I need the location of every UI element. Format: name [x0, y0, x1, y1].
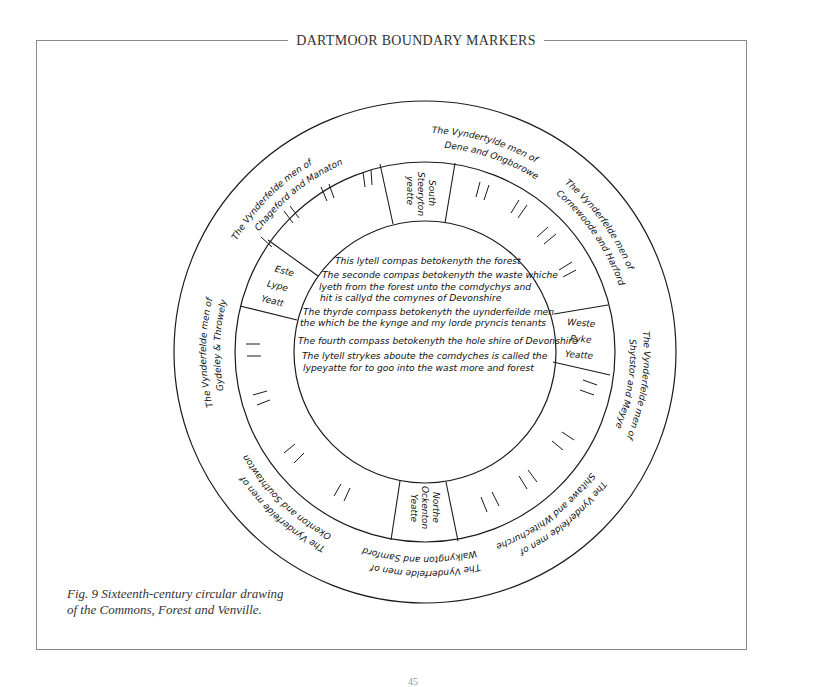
inner-legend-text: This lytell compas betokenyth the forest… [298, 255, 578, 373]
svg-text:Weste: Weste [567, 317, 596, 329]
venville-walkyngton-line2: Walkyngton and Samford [361, 546, 478, 565]
venville-cornewoode-line1: The Vynderfelde men of [563, 177, 636, 273]
svg-text:Yeatte: Yeatte [409, 494, 419, 523]
svg-text:South: South [427, 180, 437, 206]
svg-text:This lytell compas betokenyth: This lytell compas betokenyth the forest [335, 255, 521, 266]
venville-dene-line2: Dene and Ongborowe [444, 140, 541, 182]
svg-text:lyeth from the forest unto the: lyeth from the forest unto the comdychys… [319, 281, 531, 292]
svg-text:Yeatt: Yeatt [260, 293, 285, 308]
caption-line-2: of the Commons, Forest and Venville. [67, 602, 307, 618]
east-gate-label: Este Lype Yeatt [260, 262, 295, 309]
caption-line-1: Fig. 9 Sixteenth-century circular drawin… [67, 586, 307, 602]
svg-text:Northe: Northe [431, 492, 441, 523]
svg-text:Ockenton: Ockenton [420, 486, 430, 530]
svg-text:The fourth compass betokenyth: The fourth compass betokenyth the hole s… [298, 335, 578, 346]
venville-okenton-line1: The Vynderfelde men of [237, 473, 327, 554]
svg-text:The seconde compas betokenyth: The seconde compas betokenyth the waste … [322, 269, 558, 280]
svg-text:hit is callyd the comynes of D: hit is callyd the comynes of Devonshire [320, 292, 502, 303]
south-gate-label: South Steeryton yeatte [405, 172, 437, 216]
svg-text:The thyrde compass betokenyth: The thyrde compass betokenyth the uynder… [303, 306, 554, 317]
svg-text:Este: Este [274, 264, 296, 279]
page-number: 45 [408, 676, 418, 687]
svg-text:Lype: Lype [266, 278, 290, 293]
svg-text:the which be the kynge and my: the which be the kynge and my lorde pryn… [300, 317, 546, 328]
svg-text:yeatte: yeatte [405, 175, 415, 205]
venville-gydeley-line2: Gydeley & Throwely [212, 298, 229, 392]
venville-chagford-line1: The Vynderfelde men of [230, 156, 316, 241]
figure-caption: Fig. 9 Sixteenth-century circular drawin… [67, 586, 307, 618]
north-gate-label: Northe Ockenton Yeatte [409, 486, 441, 530]
svg-text:Yeatte: Yeatte [565, 349, 594, 361]
svg-text:The lytell strykes aboute the: The lytell strykes aboute the comdyches … [302, 350, 548, 361]
svg-text:Steeryton: Steeryton [416, 172, 426, 216]
venville-shitawe-line1: The Vynderfelde men of [517, 480, 609, 558]
circular-boundary-diagram: The Vynderfelde men of Chageford and Man… [0, 0, 832, 687]
svg-text:lypeyatte for to goo into the: lypeyatte for to goo into the wast more … [303, 362, 534, 373]
